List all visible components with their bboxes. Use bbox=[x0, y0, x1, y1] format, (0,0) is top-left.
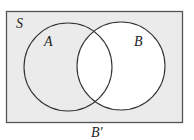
set-a-label: A bbox=[43, 34, 53, 49]
diagram-caption: B′ bbox=[91, 125, 104, 140]
universal-set-label: S bbox=[16, 16, 23, 31]
set-b-label: B bbox=[134, 34, 143, 49]
venn-diagram: S A B B′ bbox=[0, 0, 194, 140]
